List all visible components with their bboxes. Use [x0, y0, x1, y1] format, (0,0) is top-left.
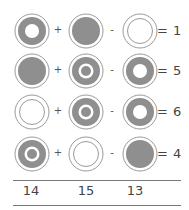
target-circle-icon [68, 94, 104, 130]
donut-circle-icon [122, 94, 158, 130]
empty-circle-icon [14, 94, 50, 130]
plus-operator: + [53, 105, 63, 116]
plus-operator: + [53, 147, 63, 158]
equation-row: +-= 1 [0, 13, 189, 53]
donut-circle-icon [14, 13, 50, 49]
equation-result: = 1 [157, 23, 182, 38]
answer-option[interactable]: 13 [120, 183, 150, 198]
top-divider [13, 180, 181, 181]
equation-row: +-= 4 [0, 136, 189, 176]
target-circle-icon [68, 53, 104, 89]
solid-circle-icon [14, 53, 50, 89]
circle-equation-puzzle: +-= 1+-= 5+-= 6+-= 4 14 15 13 [0, 0, 189, 210]
minus-operator: - [107, 147, 117, 158]
answer-options: 14 15 13 [0, 183, 189, 201]
bottom-divider [13, 205, 181, 206]
minus-operator: - [107, 64, 117, 75]
target-circle-icon [14, 136, 50, 172]
answer-option[interactable]: 15 [71, 183, 101, 198]
plus-operator: + [53, 24, 63, 35]
equation-row: +-= 5 [0, 53, 189, 93]
solid-circle-icon [68, 13, 104, 49]
equation-result: = 4 [157, 146, 182, 161]
minus-operator: - [107, 105, 117, 116]
minus-operator: - [107, 24, 117, 35]
answer-option[interactable]: 14 [16, 183, 46, 198]
donut-circle-icon [122, 53, 158, 89]
plus-operator: + [53, 64, 63, 75]
equation-row: +-= 6 [0, 94, 189, 134]
equation-result: = 6 [157, 104, 182, 119]
solid-circle-icon [122, 136, 158, 172]
empty-circle-icon [122, 13, 158, 49]
equation-result: = 5 [157, 63, 182, 78]
empty-circle-icon [68, 136, 104, 172]
